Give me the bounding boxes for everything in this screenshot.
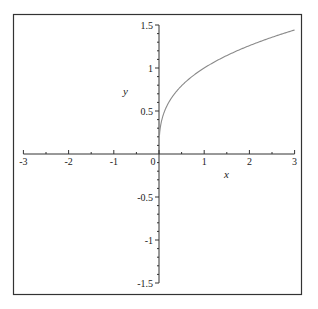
y-tick-label: -1 [145,235,153,246]
x-tick-label: -1 [110,156,118,167]
x-tick-label: 0 [151,156,156,167]
x-tick-label: 2 [247,156,252,167]
x-tick-label: -2 [64,156,72,167]
x-axis-label: x [223,168,229,180]
chart-plot: -3-2-10123-1.5-1-0.50.511.5 x y [0,0,318,309]
y-tick-label: -0.5 [137,192,153,203]
y-tick-label: 1.5 [141,20,154,31]
y-tick-label: 0.5 [141,106,154,117]
x-tick-label: -3 [19,156,27,167]
y-axis-label: y [122,85,128,97]
x-tick-label: 1 [202,156,207,167]
x-tick-label: 3 [292,156,297,167]
y-tick-label: -1.5 [137,278,153,289]
y-tick-label: 1 [148,63,153,74]
